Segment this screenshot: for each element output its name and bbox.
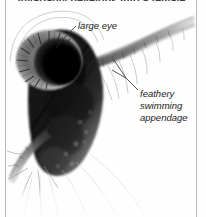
figure-panel: invariably develops into a female. xyxy=(0,0,206,217)
annotation-appendage-line-2: swimming xyxy=(140,100,188,112)
annotation-feathery-swimming-appendage: feathery swimming appendage xyxy=(140,88,188,124)
panel-right-border xyxy=(196,0,197,217)
annotation-appendage-line-3: appendage xyxy=(140,112,188,124)
annotation-appendage-line-1: feathery xyxy=(140,88,188,100)
annotation-large-eye: large eye xyxy=(78,20,117,32)
caption-fragment: invariably develops into a female. xyxy=(0,0,206,1)
